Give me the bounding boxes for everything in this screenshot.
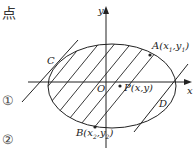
point-d-label: D: [159, 99, 167, 109]
point-p-label: P(x,y): [124, 83, 153, 93]
point-p-dot: [118, 84, 121, 87]
point-a-close: ): [185, 40, 189, 51]
point-b-coords: (x: [83, 127, 93, 138]
point-b-close: ): [109, 127, 113, 138]
header-fragment: 点: [2, 6, 16, 20]
y-axis-label: y: [98, 6, 104, 16]
point-a-coords: (x: [159, 40, 169, 51]
point-b-label: B(x2,y2): [76, 128, 113, 140]
line-1-marker: ①: [2, 94, 14, 107]
point-a-label: A(x1,y1): [152, 41, 189, 53]
line-2-marker: ②: [2, 133, 14, 146]
tangent-line-1: [22, 40, 78, 102]
point-a-dot: [148, 53, 151, 56]
point-b-mid: ,y: [97, 127, 106, 138]
x-axis-label: x: [187, 86, 193, 96]
point-c-label: C: [47, 56, 55, 66]
origin-label: O: [97, 84, 105, 94]
